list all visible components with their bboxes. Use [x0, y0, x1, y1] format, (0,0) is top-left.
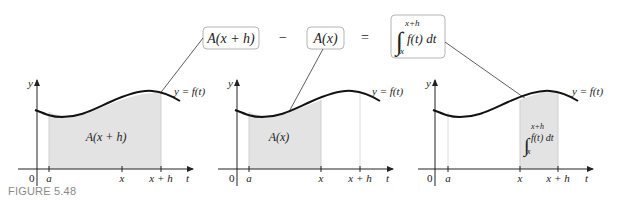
- integral-upper: x+h: [404, 18, 420, 28]
- tick-origin: 0: [29, 172, 35, 184]
- tick-x: x: [318, 172, 324, 184]
- t-axis-label: t: [585, 172, 589, 184]
- y-axis-label: y: [425, 77, 431, 89]
- term-a-x-plus-h: A(x + h): [206, 31, 255, 47]
- t-axis-label: t: [186, 172, 190, 184]
- curve-label: y = f(t): [371, 85, 404, 98]
- tick-x: x: [119, 172, 125, 184]
- integral-integrand: f(t) dt: [531, 132, 554, 144]
- t-axis-label: t: [386, 172, 390, 184]
- figure-canvas: A(x + h) − A(x) = ∫ x+h x f(t) dt y y = …: [0, 0, 620, 206]
- integral-integrand: f(t) dt: [407, 31, 437, 46]
- tick-x-plus-h: x + h: [545, 172, 570, 184]
- panel-2: y y = f(t) A(x) 0 a x x + h t: [218, 77, 404, 186]
- curve-label: y = f(t): [173, 85, 206, 98]
- tick-x-plus-h: x + h: [148, 172, 173, 184]
- tick-a: a: [46, 172, 52, 184]
- tick-origin: 0: [427, 172, 433, 184]
- tick-x-plus-h: x + h: [347, 172, 372, 184]
- y-axis-label: y: [227, 77, 233, 89]
- connector-integral: [445, 42, 533, 104]
- panel-1: y y = f(t) A(x + h) 0 a x x + h t: [18, 77, 206, 186]
- panel-3: y y = f(t) ∫ x+h x f(t) dt 0 a x x + h t: [418, 77, 604, 186]
- integral-lower: x: [526, 147, 531, 156]
- region-label: A(x): [268, 130, 290, 144]
- tick-origin: 0: [229, 172, 235, 184]
- curve-label: y = f(t): [571, 85, 604, 98]
- term-a-x: A(x): [312, 31, 337, 47]
- equation: A(x + h) − A(x) = ∫ x+h x f(t) dt: [203, 15, 445, 58]
- equals-sign: =: [361, 30, 369, 45]
- figure-caption: FIGURE 5.48: [8, 185, 76, 197]
- y-axis-label: y: [27, 77, 33, 89]
- integral-lower: x: [399, 46, 404, 56]
- minus-sign: −: [279, 30, 287, 45]
- integral-upper: x+h: [530, 122, 544, 131]
- tick-a: a: [445, 172, 451, 184]
- region-label: A(x + h): [85, 130, 127, 144]
- tick-a: a: [246, 172, 252, 184]
- tick-x: x: [517, 172, 523, 184]
